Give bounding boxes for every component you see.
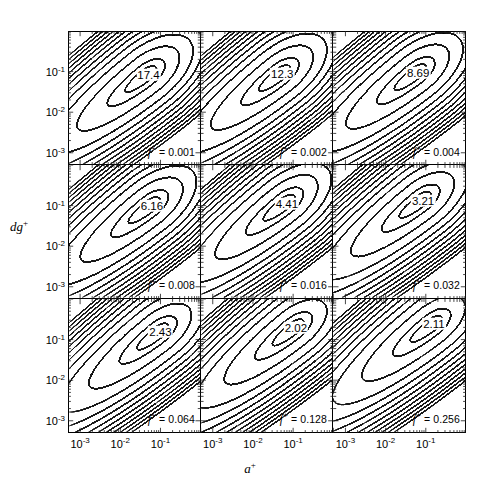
x-tick-label: 10-1 bbox=[270, 437, 316, 450]
x-tick-exp: -2 bbox=[123, 436, 130, 445]
y-tick-base: 10 bbox=[46, 415, 58, 427]
y-tick-exp: -1 bbox=[58, 332, 65, 341]
x-tick-base: 10 bbox=[243, 438, 255, 450]
y-tick-label: 10-2 bbox=[25, 374, 65, 387]
y-tick-base: 10 bbox=[46, 334, 58, 346]
contour-lines bbox=[333, 299, 465, 432]
contour-lines bbox=[333, 165, 465, 297]
x-tick-label: 10-2 bbox=[363, 437, 409, 450]
x-tick-base: 10 bbox=[283, 438, 295, 450]
x-title-sup: + bbox=[251, 460, 256, 470]
y-tick-base: 10 bbox=[46, 200, 58, 212]
y-tick-base: 10 bbox=[46, 107, 58, 119]
x-tick-exp: -1 bbox=[428, 436, 435, 445]
y-tick-base: 10 bbox=[46, 147, 58, 159]
contour-panel-f-0p001: 17.4f+ = 0.001 bbox=[69, 32, 201, 165]
x-tick-exp: -3 bbox=[83, 436, 90, 445]
x-tick-label: 10-2 bbox=[97, 437, 143, 450]
y-tick-label: 10-2 bbox=[25, 106, 65, 119]
x-tick-label: 10-2 bbox=[230, 437, 276, 450]
x-tick-exp: -2 bbox=[256, 436, 263, 445]
y-tick-base: 10 bbox=[46, 66, 58, 78]
y-tick-exp: -3 bbox=[58, 145, 65, 154]
contour-panel-f-0p128: 2.02f+ = 0.128 bbox=[201, 299, 333, 432]
y-title-text: dg bbox=[10, 219, 23, 234]
contour-lines bbox=[201, 165, 332, 297]
y-tick-base: 10 bbox=[46, 281, 58, 293]
x-tick-base: 10 bbox=[336, 438, 348, 450]
contour-panel-f-0p008: 6.16f+ = 0.008 bbox=[69, 165, 201, 298]
x-tick-exp: -3 bbox=[348, 436, 355, 445]
panel-grid: 17.4f+ = 0.00112.3f+ = 0.0028.69f+ = 0.0… bbox=[68, 31, 466, 433]
y-tick-label: 10-3 bbox=[25, 414, 65, 427]
contour-lines bbox=[333, 32, 465, 164]
y-tick-label: 10-1 bbox=[25, 199, 65, 212]
x-tick-base: 10 bbox=[376, 438, 388, 450]
x-tick-base: 10 bbox=[111, 438, 123, 450]
y-tick-label: 10-3 bbox=[25, 146, 65, 159]
contour-lines bbox=[201, 299, 332, 432]
x-tick-base: 10 bbox=[70, 438, 82, 450]
contour-panel-f-0p256: 2.11f+ = 0.256 bbox=[333, 299, 465, 432]
y-axis-title: dg+ bbox=[10, 218, 28, 235]
y-tick-label: 10-1 bbox=[25, 65, 65, 78]
x-tick-label: 10-3 bbox=[190, 437, 236, 450]
x-tick-exp: -3 bbox=[215, 436, 222, 445]
y-tick-label: 10-1 bbox=[25, 333, 65, 346]
y-tick-exp: -1 bbox=[58, 64, 65, 73]
x-tick-label: 10-1 bbox=[403, 437, 449, 450]
x-tick-label: 10-3 bbox=[57, 437, 103, 450]
contour-panel-f-0p002: 12.3f+ = 0.002 bbox=[201, 32, 333, 165]
contour-panel-f-0p016: 4.41f+ = 0.016 bbox=[201, 165, 333, 298]
x-tick-base: 10 bbox=[203, 438, 215, 450]
x-axis-tick-labels: 10-310-210-110-310-210-110-310-210-1 bbox=[68, 437, 466, 453]
y-tick-exp: -2 bbox=[58, 105, 65, 114]
x-tick-label: 10-1 bbox=[137, 437, 183, 450]
y-tick-label: 10-2 bbox=[25, 240, 65, 253]
contour-panel-f-0p004: 8.69f+ = 0.004 bbox=[333, 32, 465, 165]
x-axis-title: a+ bbox=[0, 460, 500, 477]
contour-lines bbox=[201, 32, 332, 164]
contour-panel-f-0p064: 2.43f+ = 0.064 bbox=[69, 299, 201, 432]
x-tick-base: 10 bbox=[416, 438, 428, 450]
y-tick-exp: -1 bbox=[58, 198, 65, 207]
x-tick-label: 10-3 bbox=[322, 437, 368, 450]
y-title-sup: + bbox=[23, 218, 28, 228]
y-tick-base: 10 bbox=[46, 241, 58, 253]
y-tick-exp: -2 bbox=[58, 373, 65, 382]
x-tick-exp: -1 bbox=[163, 436, 170, 445]
y-tick-label: 10-3 bbox=[25, 280, 65, 293]
contour-lines bbox=[69, 32, 200, 164]
contour-lines bbox=[69, 299, 200, 432]
x-tick-exp: -1 bbox=[296, 436, 303, 445]
contour-figure: 17.4f+ = 0.00112.3f+ = 0.0028.69f+ = 0.0… bbox=[0, 0, 500, 500]
y-tick-base: 10 bbox=[46, 375, 58, 387]
x-tick-base: 10 bbox=[151, 438, 163, 450]
contour-lines bbox=[69, 165, 200, 297]
y-tick-exp: -3 bbox=[58, 279, 65, 288]
y-tick-exp: -3 bbox=[58, 413, 65, 422]
y-tick-exp: -2 bbox=[58, 239, 65, 248]
contour-panel-f-0p032: 3.21f+ = 0.032 bbox=[333, 165, 465, 298]
x-tick-exp: -2 bbox=[388, 436, 395, 445]
